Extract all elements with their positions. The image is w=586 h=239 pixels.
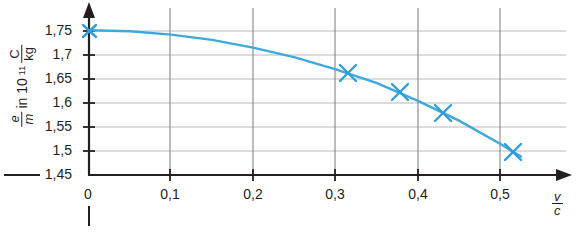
theoretical-curve <box>89 30 521 156</box>
horizontal-gridlines <box>88 31 566 151</box>
chart-plot-svg <box>0 0 586 239</box>
data-point-marker <box>435 105 451 121</box>
data-point-marker <box>505 144 521 160</box>
vertical-gridlines <box>170 8 500 175</box>
y-axis-arrow-icon <box>83 2 95 18</box>
data-point-markers <box>83 25 521 160</box>
x-axis-arrow-icon <box>556 169 572 181</box>
chart-figure: e m in 1011 C kg 1,75 1,7 1,65 1,6 1,55 … <box>0 0 586 239</box>
